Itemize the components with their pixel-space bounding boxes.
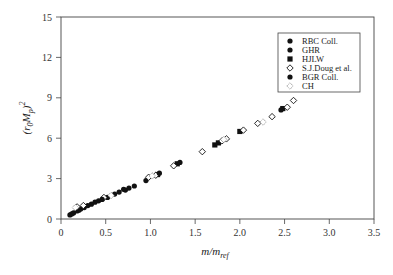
x-tick-label: 1.0 <box>144 227 157 238</box>
data-point-circle-marker <box>278 107 283 112</box>
y-tick-label: 15 <box>42 12 52 23</box>
legend: RBC Coll.GHRHJLWS.J.Doug et al.BGR Coll.… <box>278 33 360 92</box>
data-point-circle-marker <box>126 185 131 190</box>
legend-label: CH <box>302 81 314 91</box>
data-point-circle-marker <box>177 160 182 165</box>
y-tick-label: 9 <box>47 92 52 103</box>
data-point-diamond-marker <box>290 97 296 103</box>
x-tick-label: 2.5 <box>278 227 291 238</box>
data-point-circle-marker <box>121 187 126 192</box>
series-s-j-doug-et-al- <box>74 97 297 210</box>
data-point-dotted-diamond-marker <box>260 119 266 125</box>
data-point-circle-marker <box>157 171 162 176</box>
y-tick-label: 3 <box>47 173 52 184</box>
y-tick-label: 0 <box>47 214 52 225</box>
y-tick-label: 6 <box>47 133 52 144</box>
y-tick-label: 12 <box>42 52 52 63</box>
x-axis-ticks: 00.51.01.52.02.53.03.5 <box>59 219 381 238</box>
data-point-circle-marker <box>89 202 94 207</box>
x-tick-label: 3.0 <box>323 227 336 238</box>
data-point-diamond-marker <box>269 113 275 119</box>
x-tick-label: 2.0 <box>234 227 247 238</box>
y-axis-ticks: 03691215 <box>42 12 61 225</box>
scatter-chart: 00.51.01.52.02.53.03.5 03691215 m/mref (… <box>0 0 393 275</box>
x-tick-label: 0 <box>59 227 64 238</box>
data-point-circle-marker <box>117 189 122 194</box>
data-point-diamond-marker <box>199 148 205 154</box>
x-tick-label: 1.5 <box>189 227 202 238</box>
data-point-circle-marker <box>100 197 105 202</box>
legend-circle-marker <box>287 38 292 43</box>
data-point-circle-marker <box>132 183 137 188</box>
data-point-diamond-marker <box>255 120 261 126</box>
x-tick-label: 3.5 <box>368 227 381 238</box>
data-point-circle-marker <box>69 211 74 216</box>
x-tick-label: 0.5 <box>99 227 112 238</box>
x-axis-title: m/mref <box>201 245 230 260</box>
legend-square-marker <box>287 56 292 61</box>
legend-circle-marker <box>287 74 292 79</box>
y-axis-title: (r0Mp)2 <box>18 102 35 135</box>
legend-circle-marker <box>287 47 292 52</box>
data-points <box>67 97 296 217</box>
